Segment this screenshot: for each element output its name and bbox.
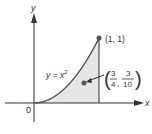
centroid-y-denominator: 10	[123, 80, 132, 89]
curve-label-lhs: y = x	[45, 70, 65, 80]
centroid-comma: ,	[117, 79, 119, 88]
x-axis-label: x	[144, 98, 150, 108]
endpoint-dot	[97, 36, 102, 41]
y-axis-arrow-icon	[31, 13, 37, 23]
centroid-label: ( 3 4 , 3 10 )	[104, 68, 142, 90]
diagram-canvas: y x 0 y = x2 (1, 1) ( 3 4 , 3 10 )	[0, 0, 152, 134]
centroid-x-denominator: 4	[111, 80, 116, 89]
centroid-x-numerator: 3	[111, 69, 116, 78]
centroid-open-paren: (	[104, 68, 111, 90]
centroid-y-numerator: 3	[126, 69, 131, 78]
centroid-dot	[82, 81, 87, 86]
origin-label: 0	[26, 105, 31, 115]
curve-label-exponent: 2	[63, 69, 68, 75]
endpoint-label: (1, 1)	[105, 34, 125, 44]
y-axis-label: y	[30, 3, 36, 13]
centroid-close-paren: )	[135, 68, 142, 90]
curve-label: y = x2	[45, 69, 68, 80]
x-axis-arrow-icon	[134, 100, 144, 106]
